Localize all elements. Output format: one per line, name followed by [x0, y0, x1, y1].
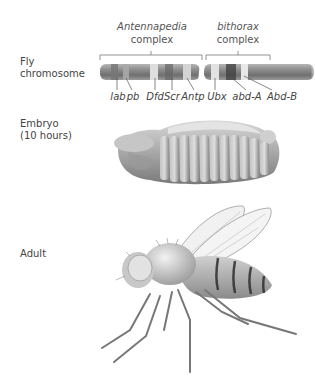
gene-label-lab: lab — [110, 91, 125, 102]
adult-fly-illustration — [102, 206, 296, 372]
gene-label-pb: pb — [127, 91, 140, 102]
embryo-illustration — [114, 121, 279, 185]
hox-diagram-artwork — [0, 0, 316, 388]
gene-label-ubx: Ubx — [207, 91, 227, 102]
gene-label-scr: Scr — [164, 91, 180, 102]
gene-label-abd-b: Abd-B — [267, 91, 297, 102]
antennapedia-bracket — [100, 51, 202, 60]
chromosome-bar — [100, 62, 316, 90]
gene-label-antp: Antp — [181, 91, 204, 102]
gene-label-abd-a: abd-A — [232, 91, 261, 102]
gene-label-dfd: Dfd — [146, 91, 164, 102]
bithorax-bracket — [206, 51, 270, 60]
